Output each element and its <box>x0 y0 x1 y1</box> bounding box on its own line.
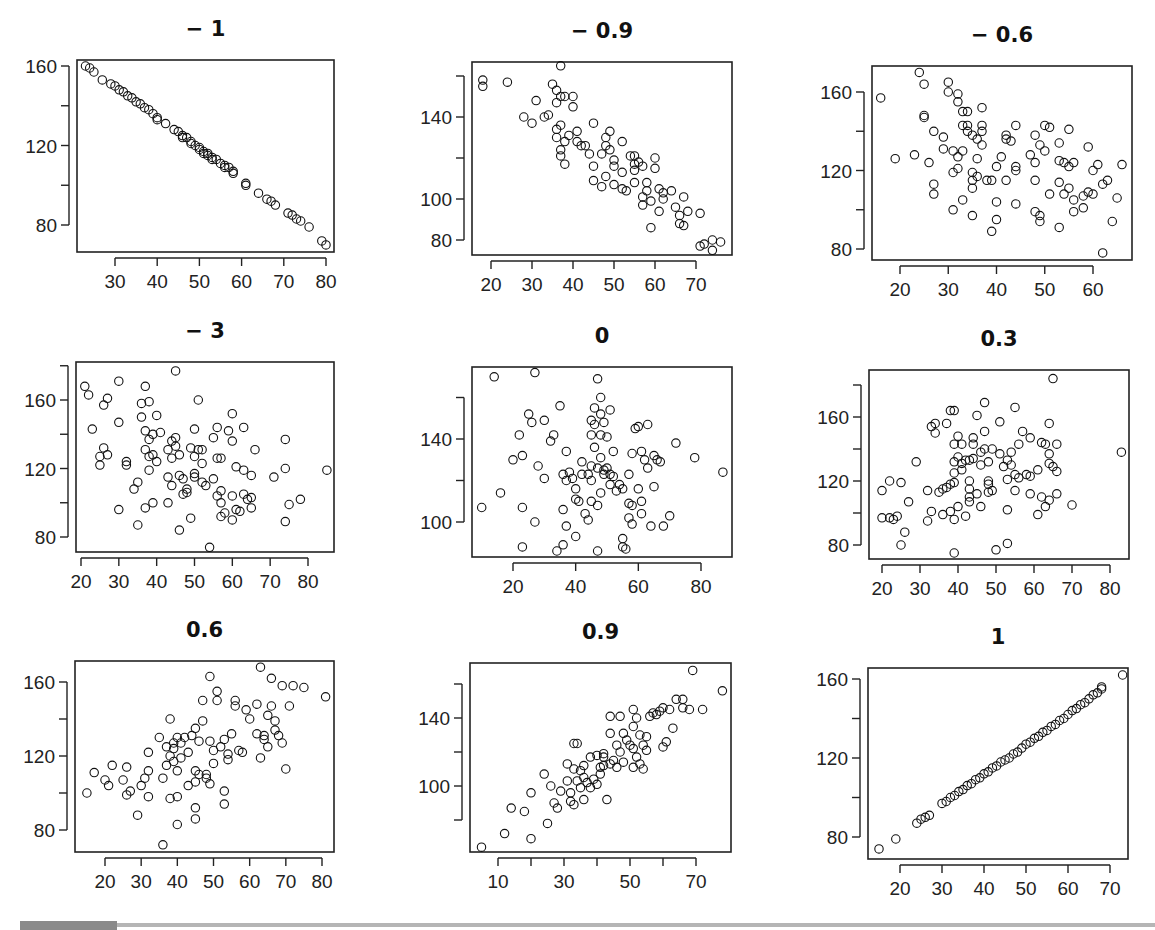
data-point <box>191 815 199 823</box>
data-point <box>639 193 647 201</box>
data-point <box>616 712 624 720</box>
data-point <box>950 515 958 523</box>
x-axis: 20406080 <box>502 563 711 597</box>
y-tick-label: 140 <box>420 429 452 450</box>
data-point <box>616 748 624 756</box>
data-point <box>518 543 526 551</box>
data-point <box>1003 539 1011 547</box>
x-tick-label: 50 <box>184 571 205 592</box>
x-tick-label: 30 <box>938 279 959 300</box>
scatter-panel: 010014020406080 <box>420 324 732 597</box>
data-point <box>598 150 606 158</box>
data-point <box>527 789 535 797</box>
data-point <box>190 425 198 433</box>
data-point <box>637 447 645 455</box>
data-point <box>540 770 548 778</box>
data-point <box>1097 683 1105 691</box>
data-point <box>1041 121 1049 129</box>
data-point <box>479 82 487 90</box>
data-point <box>643 187 651 195</box>
data-point <box>548 80 556 88</box>
x-tick-label: 70 <box>275 871 296 892</box>
data-point <box>556 402 564 410</box>
data-point <box>655 207 663 215</box>
data-point <box>630 178 638 186</box>
data-point <box>1089 166 1097 174</box>
x-tick-label: 30 <box>104 271 125 292</box>
data-point <box>659 522 667 530</box>
y-axis: 80120160 <box>25 56 69 236</box>
data-point <box>988 227 996 235</box>
x-tick-label: 50 <box>1015 878 1036 899</box>
x-tick-label: 40 <box>562 274 583 295</box>
data-point <box>246 715 254 723</box>
data-point <box>572 532 580 540</box>
data-point <box>134 521 142 529</box>
x-axis: 203040506070 <box>889 865 1120 899</box>
data-point <box>590 443 598 451</box>
data-point <box>242 181 250 189</box>
data-point <box>187 514 195 522</box>
data-point <box>1045 450 1053 458</box>
data-point <box>984 458 992 466</box>
data-point <box>503 78 511 86</box>
data-point <box>885 477 893 485</box>
data-point <box>647 522 655 530</box>
data-point <box>1070 196 1078 204</box>
x-tick-label: 50 <box>1034 279 1055 300</box>
data-point <box>1041 147 1049 155</box>
data-point <box>978 141 986 149</box>
data-point <box>217 499 225 507</box>
data-point <box>562 522 570 530</box>
panel-title: 0.3 <box>980 327 1017 351</box>
data-point <box>891 155 899 163</box>
data-point <box>123 763 131 771</box>
data-point <box>527 835 535 843</box>
data-point <box>1049 374 1057 382</box>
data-point <box>281 435 289 443</box>
data-point <box>323 466 331 474</box>
data-point <box>285 702 293 710</box>
data-point <box>98 76 106 84</box>
plot-frame <box>76 362 334 552</box>
data-point <box>716 238 724 246</box>
scatter-panel: − 38012016020304050607080 <box>24 319 334 592</box>
data-point <box>980 427 988 435</box>
data-point <box>1055 223 1063 231</box>
data-point <box>1012 200 1020 208</box>
data-point <box>600 418 608 426</box>
data-point <box>578 458 586 466</box>
x-axis: 20304050607080 <box>70 558 318 592</box>
data-point <box>1060 190 1068 198</box>
data-point <box>597 393 605 401</box>
data-point <box>923 486 931 494</box>
data-point <box>603 795 611 803</box>
data-point <box>877 94 885 102</box>
data-point <box>1055 157 1063 165</box>
data-point <box>718 687 726 695</box>
y-tick-label: 80 <box>34 820 55 841</box>
data-point <box>1045 123 1053 131</box>
panel-title: 0.9 <box>582 620 619 644</box>
data-point <box>281 464 289 472</box>
data-point <box>515 431 523 439</box>
data-point <box>213 423 221 431</box>
plot-frame <box>872 66 1132 260</box>
data-point <box>958 466 966 474</box>
data-point <box>264 743 272 751</box>
y-axis: 80100140 <box>420 76 464 251</box>
data-point <box>573 127 581 135</box>
x-tick-label: 70 <box>685 274 706 295</box>
data-point <box>145 466 153 474</box>
data-point <box>915 68 923 76</box>
data-point <box>696 209 704 217</box>
x-tick-label: 20 <box>871 578 892 599</box>
data-point <box>630 166 638 174</box>
data-point <box>901 528 909 536</box>
data-point <box>256 754 264 762</box>
data-point <box>240 466 248 474</box>
data-point <box>490 373 498 381</box>
data-point <box>206 737 214 745</box>
x-tick-label: 50 <box>203 871 224 892</box>
data-point <box>242 179 250 187</box>
